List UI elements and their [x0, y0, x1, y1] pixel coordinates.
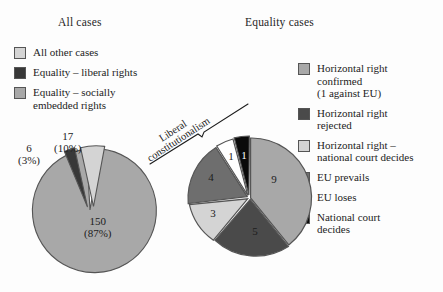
data-label-all-other-cases: 17 (10%) — [54, 130, 82, 154]
legend-item-eu-prevails: EU prevails — [298, 171, 414, 184]
legend-item-label: National court decides — [317, 211, 380, 236]
legend-item-label: Equality – liberal rights — [33, 66, 137, 79]
legend-swatch-icon — [298, 63, 310, 75]
legend-item-label: All other cases — [33, 46, 98, 59]
legend-item-label: Horizontal right rejected — [317, 107, 388, 132]
legend-equality-cases: Horizontal right confirmed (1 against EU… — [298, 62, 414, 243]
figure-canvas: All cases Equality cases All other cases… — [0, 0, 443, 292]
legend-item-label: EU prevails — [317, 171, 369, 184]
legend-swatch-icon — [14, 67, 26, 79]
legend-item-equality-socially-embedded-rights: Equality – socially embedded rights — [14, 86, 137, 111]
page-title-equality-cases: Equality cases — [245, 16, 314, 28]
legend-item-all-other-cases: All other cases — [14, 46, 137, 59]
legend-item-label: EU loses — [317, 191, 356, 204]
legend-item-label: Equality – socially embedded rights — [33, 86, 115, 111]
legend-all-cases: All other cases Equality – liberal right… — [14, 46, 137, 118]
pie-chart-all-cases — [28, 148, 152, 272]
legend-item-national-court-decides: National court decides — [298, 211, 414, 236]
legend-swatch-icon — [14, 47, 26, 59]
data-label-eu-prevails: 4 — [208, 171, 214, 183]
legend-item-equality-liberal-rights: Equality – liberal rights — [14, 66, 137, 79]
legend-item-horizontal-right-national-court-decides: Horizontal right – national court decide… — [298, 139, 414, 164]
data-label-equality-socially-embedded-rights: 150 (87%) — [84, 215, 112, 239]
page-title-all-cases: All cases — [58, 16, 102, 28]
legend-item-label: Horizontal right – national court decide… — [317, 139, 414, 164]
legend-item-eu-loses: EU loses — [298, 191, 414, 204]
legend-swatch-icon — [14, 87, 26, 99]
data-label-horizontal-right-rejected: 5 — [252, 225, 258, 237]
pie-all-cases-svg — [28, 148, 152, 272]
legend-item-horizontal-right-confirmed: Horizontal right confirmed (1 against EU… — [298, 62, 414, 100]
legend-item-label: Horizontal right confirmed (1 against EU… — [317, 62, 388, 100]
legend-item-horizontal-right-rejected: Horizontal right rejected — [298, 107, 414, 132]
annotation-liberal-constitutionalism: Liberal constitutionalism — [148, 98, 253, 170]
data-label-horizontal-right-confirmed: 9 — [271, 173, 277, 185]
legend-swatch-icon — [298, 108, 310, 120]
data-label-horizontal-right-national-court-decides: 3 — [210, 207, 216, 219]
data-label-equality-liberal-rights: 6 (3%) — [18, 142, 40, 166]
